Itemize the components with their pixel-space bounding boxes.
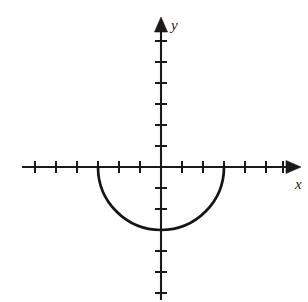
graph-figure: y x (0, 0, 308, 302)
y-axis-label: y (169, 17, 178, 33)
x-axis-arrow-icon (286, 161, 301, 174)
y-axis-arrow-icon (155, 17, 168, 32)
coordinate-plane-svg: y x (0, 0, 308, 302)
x-axis-label: x (294, 176, 302, 192)
